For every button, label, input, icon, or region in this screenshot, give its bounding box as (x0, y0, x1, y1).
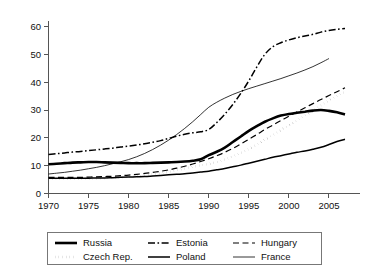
series-line-estonia (49, 29, 345, 155)
y-tick-marks (44, 27, 49, 194)
line-chart: 0102030405060 19701975198019851990199520… (0, 0, 369, 277)
x-tick-marks (49, 194, 329, 199)
x-tick-label: 1985 (158, 200, 179, 211)
legend-label-hungary: Hungary (261, 237, 297, 248)
x-tick-label: 1970 (38, 200, 59, 211)
series-line-poland (49, 139, 345, 178)
x-tick-label: 1975 (78, 200, 99, 211)
x-tick-label: 1990 (198, 200, 219, 211)
y-tick-label: 60 (30, 21, 41, 32)
x-tick-label: 1980 (118, 200, 139, 211)
series-lines (49, 29, 345, 180)
y-axis: 0102030405060 (30, 21, 48, 199)
legend-label-russia: Russia (83, 237, 113, 248)
y-tick-labels: 0102030405060 (30, 21, 41, 199)
x-tick-label: 1995 (238, 200, 259, 211)
y-tick-label: 40 (30, 77, 41, 88)
y-tick-label: 20 (30, 132, 41, 143)
series-line-czech-rep (49, 92, 345, 179)
series-line-france (49, 59, 329, 174)
y-tick-label: 30 (30, 104, 41, 115)
legend-label-france: France (261, 251, 291, 262)
y-tick-label: 10 (30, 160, 41, 171)
x-tick-labels: 19701975198019851990199520002005 (38, 200, 340, 211)
y-tick-label: 0 (36, 188, 41, 199)
legend-label-poland: Poland (176, 251, 206, 262)
legend-label-czech-rep: Czech Rep. (83, 251, 133, 262)
x-tick-label: 2000 (278, 200, 299, 211)
x-axis: 19701975198019851990199520002005 (38, 194, 360, 212)
x-tick-label: 2005 (318, 200, 339, 211)
legend-label-estonia: Estonia (176, 237, 208, 248)
legend: RussiaEstoniaHungaryCzech Rep.PolandFran… (48, 233, 322, 265)
y-tick-label: 50 (30, 49, 41, 60)
